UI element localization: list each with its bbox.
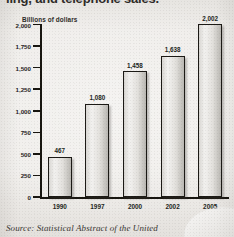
y-tick-mark — [33, 24, 40, 26]
x-tick-label-2000: 2000 — [117, 203, 153, 210]
y-tick-label: 750 — [2, 129, 31, 136]
x-tick-label-1997: 1997 — [79, 203, 115, 210]
y-tick-label: 0 — [2, 194, 31, 201]
y-tick-label: 250 — [2, 172, 31, 179]
y-tick-mark — [33, 88, 40, 90]
bar-value-label: 2,002 — [192, 15, 228, 22]
bar-1997 — [85, 104, 109, 197]
y-tick-label: 1,000 — [2, 107, 31, 114]
bar-value-label: 467 — [42, 147, 78, 154]
y-tick-mark — [33, 110, 40, 112]
source-note: Source: Statistical Abstract of the Unit… — [6, 223, 158, 233]
x-tick-label-2002: 2002 — [155, 203, 191, 210]
bar-2002 — [161, 56, 185, 197]
bar-2005 — [198, 24, 222, 197]
y-axis-line — [40, 24, 42, 199]
y-tick-mark — [33, 67, 40, 69]
x-tick-label-1990: 1990 — [42, 203, 78, 210]
y-tick-label: 1,250 — [2, 86, 31, 93]
bar-1990 — [48, 157, 72, 197]
bar-value-label: 1,458 — [117, 62, 153, 69]
chart-plot-area: 02505007501,0001,2501,5001,7502,000 4671… — [0, 0, 234, 237]
y-tick-mark — [33, 175, 40, 177]
bar-value-label: 1,080 — [79, 94, 115, 101]
y-tick-label: 1,500 — [2, 64, 31, 71]
bar-2000 — [123, 71, 147, 197]
y-tick-mark — [33, 132, 40, 134]
y-tick-label: 1,750 — [2, 43, 31, 50]
y-tick-mark — [33, 196, 40, 198]
bar-value-label: 1,638 — [155, 46, 191, 53]
x-tick-label-2005: 2005 — [192, 203, 228, 210]
y-tick-label: 2,000 — [2, 21, 31, 28]
x-axis-baseline — [40, 197, 229, 199]
y-tick-mark — [33, 45, 40, 47]
y-tick-mark — [33, 153, 40, 155]
y-tick-label: 500 — [2, 150, 31, 157]
